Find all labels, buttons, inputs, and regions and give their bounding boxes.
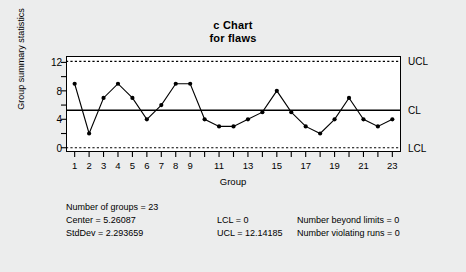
data-point-9 bbox=[188, 82, 192, 86]
x-tick-label-4: 4 bbox=[115, 160, 120, 171]
x-tick-label-13: 13 bbox=[243, 160, 254, 171]
data-point-4 bbox=[116, 82, 120, 86]
y-tick-label-0: 0 bbox=[22, 142, 62, 153]
plot-area bbox=[66, 56, 401, 152]
data-point-11 bbox=[217, 124, 221, 128]
cl-label: CL bbox=[408, 105, 421, 116]
statistics-block: Number of groups = 23 Center = 5.26087 L… bbox=[0, 202, 466, 241]
data-point-7 bbox=[159, 103, 163, 107]
chart-title-line2: for flaws bbox=[0, 32, 466, 44]
data-point-21 bbox=[361, 117, 365, 121]
data-point-12 bbox=[231, 124, 235, 128]
data-point-13 bbox=[246, 117, 250, 121]
x-tick-label-6: 6 bbox=[144, 160, 149, 171]
stat-center: Center = 5.26087 bbox=[66, 215, 136, 225]
stats-row: StdDev = 2.293659 UCL = 12.14185 Number … bbox=[0, 228, 466, 241]
data-point-5 bbox=[130, 96, 134, 100]
stats-row: Center = 5.26087 LCL = 0 Number beyond l… bbox=[0, 215, 466, 228]
x-tick-label-3: 3 bbox=[101, 160, 106, 171]
data-point-16 bbox=[289, 110, 293, 114]
data-point-20 bbox=[347, 96, 351, 100]
data-point-8 bbox=[174, 82, 178, 86]
chart-title-line1: c Chart bbox=[0, 19, 466, 31]
x-tick-label-21: 21 bbox=[358, 160, 369, 171]
data-point-18 bbox=[318, 131, 322, 135]
series-layer bbox=[66, 56, 401, 152]
stat-beyond-limits: Number beyond limits = 0 bbox=[297, 215, 399, 225]
y-tick-label-8: 8 bbox=[22, 85, 62, 96]
data-point-3 bbox=[101, 96, 105, 100]
data-point-2 bbox=[87, 131, 91, 135]
stat-violating-runs: Number violating runs = 0 bbox=[297, 228, 400, 238]
lcl-label: LCL bbox=[408, 142, 426, 153]
x-tick-label-11: 11 bbox=[214, 160, 224, 171]
data-point-6 bbox=[145, 117, 149, 121]
x-tick-label-15: 15 bbox=[272, 160, 283, 171]
stat-lcl: LCL = 0 bbox=[217, 215, 248, 225]
data-point-23 bbox=[390, 117, 394, 121]
data-point-10 bbox=[203, 117, 207, 121]
x-tick-label-5: 5 bbox=[130, 160, 135, 171]
x-tick-label-8: 8 bbox=[173, 160, 178, 171]
data-point-19 bbox=[332, 117, 336, 121]
x-tick-label-23: 23 bbox=[387, 160, 398, 171]
x-tick-label-17: 17 bbox=[300, 160, 311, 171]
stat-stddev: StdDev = 2.293659 bbox=[66, 228, 143, 238]
x-tick-label-7: 7 bbox=[159, 160, 164, 171]
x-tick-label-9: 9 bbox=[188, 160, 193, 171]
x-tick-label-19: 19 bbox=[329, 160, 340, 171]
ucl-label: UCL bbox=[408, 56, 428, 67]
data-point-14 bbox=[260, 110, 264, 114]
stats-row: Number of groups = 23 bbox=[0, 202, 466, 215]
chart-figure: c Chart for flaws Group summary statisti… bbox=[0, 0, 466, 272]
stat-num-groups: Number of groups = 23 bbox=[66, 202, 158, 212]
x-tick-label-2: 2 bbox=[86, 160, 91, 171]
data-point-15 bbox=[275, 89, 279, 93]
x-axis-label: Group bbox=[0, 176, 466, 187]
x-tick-label-1: 1 bbox=[72, 160, 77, 171]
y-tick-label-4: 4 bbox=[22, 114, 62, 125]
stat-ucl: UCL = 12.14185 bbox=[217, 228, 282, 238]
data-point-1 bbox=[73, 82, 77, 86]
data-point-22 bbox=[376, 124, 380, 128]
data-point-17 bbox=[304, 124, 308, 128]
y-tick-label-12: 12 bbox=[22, 57, 62, 68]
